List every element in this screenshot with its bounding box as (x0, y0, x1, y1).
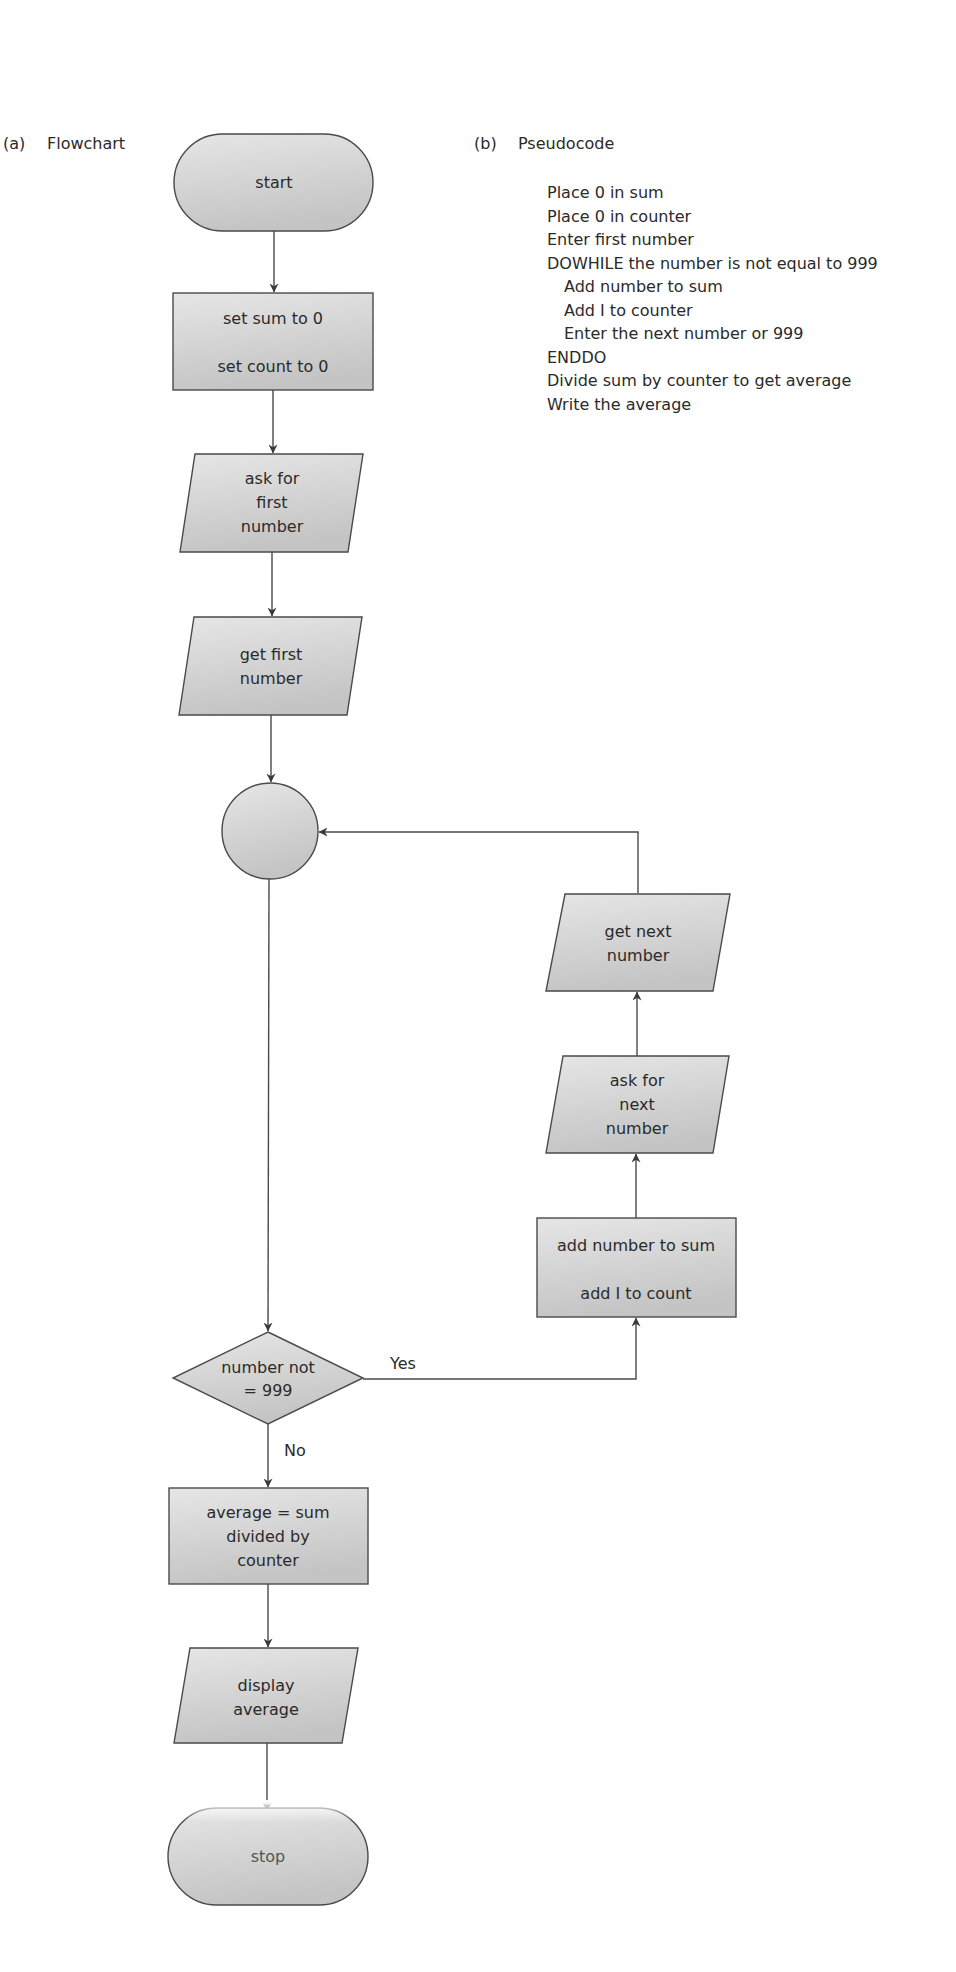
edge-label-no: No (284, 1441, 306, 1460)
connector-circle (222, 783, 318, 879)
input-shape (179, 617, 362, 715)
node-decision-line-2: = 999 (243, 1381, 292, 1400)
node-connector (222, 783, 318, 879)
node-stop-label: stop (251, 1847, 286, 1866)
node-get-next-line-2: number (607, 946, 670, 965)
node-ask-next-line-3: number (606, 1119, 669, 1138)
fade-overlay (160, 1800, 376, 1822)
node-decision-line-1: number not (221, 1358, 315, 1377)
edge-label-yes: Yes (389, 1354, 416, 1373)
node-average-line-2: divided by (226, 1527, 309, 1546)
node-ask-first-line-2: first (256, 493, 287, 512)
node-get-next: get next number (546, 894, 730, 991)
node-ask-next: ask for next number (546, 1056, 729, 1153)
flowchart: Yes No start set sum to 0 set count to 0… (0, 0, 956, 1972)
node-decision: number not = 999 (173, 1332, 363, 1424)
input-shape (174, 1648, 358, 1743)
node-start-label: start (255, 173, 292, 192)
node-start: start (174, 134, 373, 231)
input-shape (546, 894, 730, 991)
node-init-line-2: set count to 0 (217, 357, 328, 376)
node-display-line-2: average (233, 1700, 299, 1719)
node-get-first-line-1: get first (240, 645, 303, 664)
node-get-first-line-2: number (240, 669, 303, 688)
decision-shape (173, 1332, 363, 1424)
node-get-next-line-1: get next (605, 922, 672, 941)
node-display: display average (174, 1648, 358, 1743)
node-average: average = sum divided by counter (169, 1488, 368, 1584)
node-add-line-2: add I to count (580, 1284, 691, 1303)
node-display-line-1: display (238, 1676, 295, 1695)
node-ask-first-line-3: number (241, 517, 304, 536)
node-init: set sum to 0 set count to 0 (173, 293, 373, 390)
node-ask-first-line-1: ask for (245, 469, 300, 488)
node-add: add number to sum add I to count (537, 1218, 736, 1317)
node-ask-first: ask for first number (180, 454, 363, 552)
node-average-line-3: counter (237, 1551, 299, 1570)
node-ask-next-line-1: ask for (610, 1071, 665, 1090)
node-ask-next-line-2: next (619, 1095, 654, 1114)
node-get-first: get first number (179, 617, 362, 715)
node-stop: stop (160, 1800, 376, 1905)
edge-connector-to-decision (268, 879, 269, 1331)
node-average-line-1: average = sum (206, 1503, 329, 1522)
edge-get-next-to-connector (319, 832, 638, 893)
node-init-line-1: set sum to 0 (223, 309, 323, 328)
node-add-line-1: add number to sum (557, 1236, 715, 1255)
